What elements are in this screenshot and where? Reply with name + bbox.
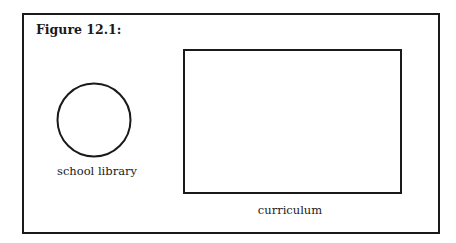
figure-canvas: Figure 12.1: school library curriculum [0, 0, 456, 243]
curriculum-label: curriculum [258, 203, 322, 217]
school-library-circle [58, 84, 131, 157]
school-library-label: school library [57, 164, 137, 178]
outer-frame [23, 14, 439, 233]
curriculum-rectangle [184, 50, 401, 193]
figure-title: Figure 12.1: [36, 22, 121, 37]
